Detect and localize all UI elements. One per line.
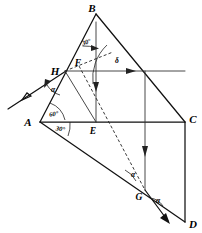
- arc-angle-delta: [93, 45, 107, 84]
- vertex-label-b: B: [87, 2, 95, 14]
- vertical-drop-arrowhead: [142, 146, 148, 157]
- segment-bc: [96, 14, 185, 122]
- normal-h-arrowhead: [126, 68, 136, 74]
- vertex-label-e: E: [89, 126, 96, 136]
- refracted-he: [65, 71, 96, 122]
- normal-line-be: [93, 22, 99, 122]
- vertex-label-c: C: [189, 113, 197, 125]
- angle-label-a-upper: 60°: [49, 109, 59, 117]
- geometry-figure: B H F A E C G D 30° 60° 30° α δ α α: [0, 0, 202, 233]
- segment-ad: [40, 122, 185, 222]
- triangle-acd: [40, 122, 185, 222]
- angle-label-a-lower: 30°: [54, 124, 66, 133]
- dashed-h-to-f: [65, 52, 113, 71]
- segment-ab: [40, 14, 96, 122]
- angle-label-delta: δ: [115, 56, 119, 65]
- vertex-label-h: H: [50, 65, 60, 77]
- vertex-label-a: A: [23, 116, 31, 128]
- angle-label-g-lower-alpha: α: [156, 196, 161, 205]
- vertical-drop-line: [142, 71, 148, 190]
- triangle-abc: [40, 14, 185, 122]
- angle-label-b: 30°: [80, 37, 92, 47]
- vertex-label-f: F: [74, 58, 82, 68]
- refracted-ray-he: [65, 71, 96, 122]
- angle-label-g-upper-alpha: α: [131, 170, 136, 179]
- vertex-label-d: D: [188, 218, 197, 230]
- be-arrowhead: [93, 82, 99, 92]
- geometry-canvas: B H F A E C G D 30° 60° 30° α δ α α: [0, 0, 202, 233]
- exit-ray-arrowhead: [160, 213, 170, 224]
- angle-labels: 30° 60° 30° α δ α α: [49, 37, 161, 205]
- arc-angle-a-lower: [68, 122, 70, 136]
- vertex-label-g: G: [136, 192, 143, 202]
- arc-angle-b-arrowhead: [91, 45, 99, 51]
